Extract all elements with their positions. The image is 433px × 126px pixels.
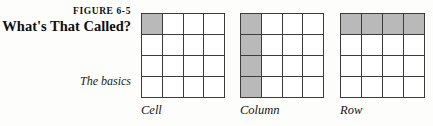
grid-cell-column-r1-c2 [283,35,304,56]
figure-title: What's That Called? [0,18,131,35]
grid-cell-row-r3-c1 [362,77,383,98]
grid-cell-cell-r1-c3 [204,35,225,56]
grid-cell-column-r3-c2 [283,77,304,98]
grid-cell-row-r0-c3 [404,14,425,35]
grid-cell-cell-r3-c2 [184,77,205,98]
figure-number: FIGURE 6-5 [0,6,131,17]
grid-caption-cell: Cell [141,103,225,117]
grid-cell-cell-r2-c2 [184,56,205,77]
grid-cell-column-r3-c0 [241,77,262,98]
grid-cell-row-r2-c2 [383,56,404,77]
grid-cell-column-r1-c1 [262,35,283,56]
grid-cell-cell-r2-c3 [204,56,225,77]
grid-cell-cell-r1-c2 [184,35,205,56]
grid-cell-cell-r3-c3 [204,77,225,98]
grid-cell-row-r2-c0 [341,56,362,77]
grid-cell-column-r2-c1 [262,56,283,77]
grid-cell-cell-r1-c1 [163,35,184,56]
grid-cell-cell-r0-c0 [142,14,163,35]
grid-caption-column: Column [240,103,324,117]
grid-cell-row-r0-c0 [341,14,362,35]
grid-cell-row-r3-c0 [341,77,362,98]
grid-cell-column-r0-c3 [303,14,324,35]
grid-cell-column-r1-c0 [241,35,262,56]
grid-cell-column-r0-c2 [283,14,304,35]
grid-cell-column-r2-c2 [283,56,304,77]
grid-cell-row-r0-c1 [362,14,383,35]
grid-caption-row: Row [340,103,425,117]
grid-cell-cell-r2-c1 [163,56,184,77]
grid-cell-row-r2-c1 [362,56,383,77]
diagram-column: Column [240,13,324,117]
grid-cell-cell-r3-c1 [163,77,184,98]
diagram-row: Row [340,13,425,117]
grid-cell-cell-r0-c1 [163,14,184,35]
grid-cell-row-r3-c3 [404,77,425,98]
figure-caption-block: FIGURE 6-5 What's That Called? [0,6,131,35]
grid-cell-column-r0-c0 [241,14,262,35]
diagram-cell: Cell [141,13,225,117]
grid-cell-row-r1-c2 [383,35,404,56]
grid-cell-row-r0-c2 [383,14,404,35]
grid-cell-column-r3-c3 [303,77,324,98]
grid-cell-row-r3-c2 [383,77,404,98]
grid-cell-column-r0-c1 [262,14,283,35]
grid-cell-cell-r0-c3 [204,14,225,35]
grid-column [240,13,324,98]
grid-cell-row-r1-c0 [341,35,362,56]
grid-cell-cell-r1-c0 [142,35,163,56]
grid-cell-cell-r3-c0 [142,77,163,98]
grid-cell-cell-r2-c0 [142,56,163,77]
grid-cell [141,13,225,98]
section-label: The basics [0,74,131,88]
grid-cell-column-r2-c0 [241,56,262,77]
grid-cell-cell-r0-c2 [184,14,205,35]
grid-cell-row-r2-c3 [404,56,425,77]
grid-row [340,13,425,98]
grid-cell-column-r1-c3 [303,35,324,56]
grid-cell-column-r3-c1 [262,77,283,98]
grid-cell-row-r1-c3 [404,35,425,56]
grid-cell-row-r1-c1 [362,35,383,56]
figure-diagram: FIGURE 6-5 What's That Called? The basic… [0,0,433,126]
grid-cell-column-r2-c3 [303,56,324,77]
